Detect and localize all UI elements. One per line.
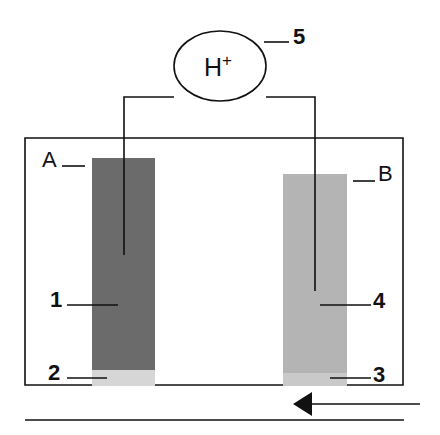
electrochemical-cell-diagram: H+ 5 A B 1 2 4 3: [0, 0, 440, 435]
label-4: 4: [373, 288, 386, 313]
label-5: 5: [293, 24, 305, 49]
label-3: 3: [373, 362, 385, 387]
electrode-b-base: [283, 373, 347, 386]
arrowhead-left-icon: [293, 392, 312, 416]
label-1: 1: [50, 287, 62, 312]
flow-arrow: [293, 392, 420, 416]
label-2: 2: [48, 360, 60, 385]
label-a: A: [42, 147, 57, 172]
label-b: B: [378, 161, 393, 186]
